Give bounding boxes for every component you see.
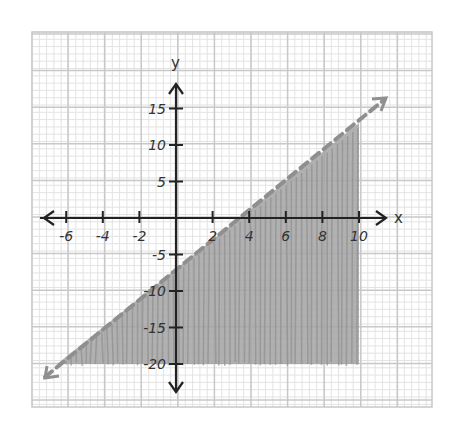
- x-tick-label: -6: [59, 228, 73, 244]
- x-tick-label: -2: [132, 228, 146, 244]
- y-tick-label: -10: [143, 283, 166, 299]
- x-tick-label: 6: [281, 228, 290, 244]
- y-tick-label: 15: [148, 101, 166, 117]
- y-axis-label: y: [171, 54, 180, 72]
- x-axis-label: x: [394, 209, 403, 227]
- y-tick-label: 5: [157, 174, 166, 190]
- inequality-graph: x y -6-4-224681015105-5-10-15-20: [0, 0, 449, 431]
- y-tick-label: 10: [148, 137, 166, 153]
- x-tick-label: 10: [350, 228, 368, 244]
- x-tick-label: 2: [208, 228, 217, 244]
- x-tick-label: -4: [96, 228, 110, 244]
- x-tick-label: 8: [318, 228, 327, 244]
- y-tick-label: -20: [143, 356, 166, 372]
- y-tick-label: -5: [152, 247, 166, 263]
- y-tick-label: -15: [143, 320, 166, 336]
- x-tick-label: 4: [245, 228, 254, 244]
